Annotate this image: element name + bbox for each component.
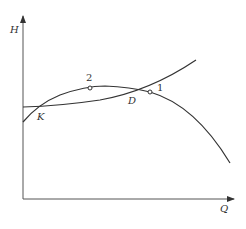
point-d-label: D	[127, 95, 136, 106]
point-1-label: 1	[157, 82, 163, 93]
diagram-canvas: H Q 2 1 K D	[0, 0, 246, 229]
y-axis-label: H	[9, 24, 19, 35]
point-2-label: 2	[86, 72, 92, 83]
pump-curve	[23, 86, 230, 163]
point-k-label: K	[36, 111, 45, 122]
point-1-marker	[148, 90, 152, 94]
point-2-marker	[88, 86, 92, 90]
x-axis-label: Q	[220, 203, 228, 214]
